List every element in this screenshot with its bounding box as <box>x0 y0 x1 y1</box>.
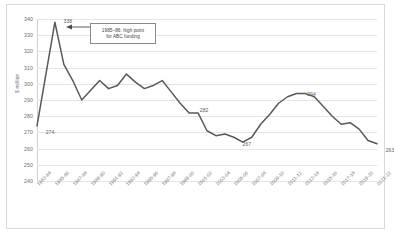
data-point-label: 274 <box>46 129 55 135</box>
y-axis-tick-label: 270 <box>24 129 33 135</box>
plot-area: 240250260270280290300310320330340 274338… <box>37 19 377 181</box>
y-axis-tick-label: 290 <box>24 97 33 103</box>
y-axis-tick-label: 250 <box>24 162 33 168</box>
y-axis-title: $ million <box>15 74 20 93</box>
y-axis-tick-label: 330 <box>24 32 33 38</box>
x-axis-tick-label: 2021-22 <box>376 170 392 186</box>
y-axis-tick-label: 280 <box>24 113 33 119</box>
data-point-label: 282 <box>200 107 209 113</box>
high-point-callout: 1985–86: high point for ABC funding <box>90 23 156 44</box>
y-axis-tick-label: 260 <box>24 146 33 152</box>
y-axis-tick-label: 240 <box>24 178 33 184</box>
data-point-label: 263 <box>386 147 394 153</box>
data-point-label: 294 <box>307 91 316 97</box>
line-series <box>37 19 377 181</box>
callout-line-2: for ABC funding <box>106 34 140 39</box>
series-line <box>37 22 377 143</box>
y-axis-tick-label: 320 <box>24 48 33 54</box>
data-point-label: 267 <box>243 141 252 147</box>
callout-line-1: 1985–86: high point <box>102 28 144 33</box>
chart-card: $ million 240250260270280290300310320330… <box>6 4 385 229</box>
y-axis-tick-label: 310 <box>24 65 33 71</box>
x-axis-ticks: 1983-841985-861987-881989-901991-921993-… <box>37 183 377 227</box>
y-axis-tick-label: 300 <box>24 81 33 87</box>
y-axis-tick-label: 340 <box>24 16 33 22</box>
